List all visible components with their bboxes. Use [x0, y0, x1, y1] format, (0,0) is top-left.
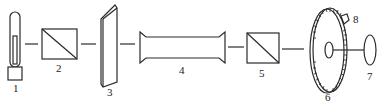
label-2: 2 — [56, 62, 62, 74]
pointer-icon — [341, 14, 349, 24]
sample-tube-icon — [140, 32, 225, 63]
label-8: 8 — [353, 13, 359, 25]
label-6: 6 — [325, 91, 331, 103]
analyzer-prism-icon — [247, 33, 279, 63]
eyepiece-icon — [364, 35, 376, 65]
label-7: 7 — [367, 70, 373, 82]
label-5: 5 — [259, 67, 265, 79]
polarizer-prism-icon — [42, 29, 77, 59]
optical-setup-diagram: 1 2 3 4 5 — [0, 0, 379, 103]
plate-icon — [101, 5, 117, 87]
label-1: 1 — [13, 82, 19, 94]
label-3: 3 — [107, 86, 113, 98]
lamp-icon — [8, 12, 22, 80]
label-4: 4 — [179, 64, 185, 76]
